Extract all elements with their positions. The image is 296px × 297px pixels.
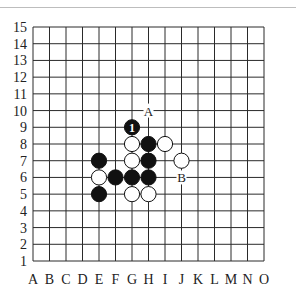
row-label: 11 [14,87,27,102]
column-label: N [242,272,252,287]
point-marker-a: A [144,104,154,119]
stone-move-number: 1 [129,121,135,135]
black-stone[interactable] [141,153,156,168]
row-label: 8 [20,137,27,152]
column-label: I [163,272,168,287]
row-label: 14 [13,37,27,52]
column-label: A [28,272,39,287]
black-stone[interactable] [91,187,106,202]
black-stone[interactable] [91,153,106,168]
column-label: J [179,272,185,287]
black-stone[interactable] [141,136,156,151]
column-label: L [210,272,219,287]
row-label: 15 [13,20,27,35]
row-label: 5 [20,187,27,202]
column-label: B [45,272,54,287]
column-label: O [259,272,269,287]
gomoku-board[interactable]: 123456789101112131415ABCDEFGHIJKLMNOAB1 [0,0,296,297]
white-stone[interactable] [157,136,172,151]
column-label: K [193,272,203,287]
row-label: 10 [13,104,27,119]
row-label: 1 [20,254,27,269]
white-stone[interactable] [124,187,139,202]
white-stone[interactable] [141,187,156,202]
white-stone[interactable] [174,153,189,168]
column-label: M [225,272,238,287]
white-stone[interactable] [124,136,139,151]
row-label: 12 [13,70,27,85]
column-label: G [127,272,137,287]
row-label: 3 [20,221,27,236]
row-label: 9 [20,120,27,135]
column-label: F [112,272,120,287]
column-label: E [95,272,104,287]
black-stone[interactable] [108,170,123,185]
column-label: C [61,272,70,287]
black-stone[interactable] [124,170,139,185]
row-label: 6 [20,170,27,185]
row-label: 13 [13,53,27,68]
white-stone[interactable] [91,170,106,185]
column-label: H [143,272,153,287]
black-stone[interactable] [141,170,156,185]
white-stone[interactable] [124,153,139,168]
row-label: 4 [20,204,27,219]
column-label: D [77,272,87,287]
row-label: 2 [20,237,27,252]
point-marker-b: B [177,170,186,185]
row-label: 7 [20,154,27,169]
